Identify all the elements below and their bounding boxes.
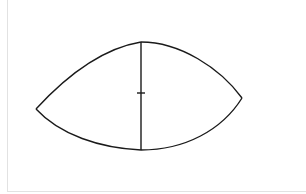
- lens-upper-right-arc: [141, 42, 242, 98]
- lens-lower-left-arc: [36, 109, 141, 150]
- lens-upper-left-arc: [36, 42, 141, 109]
- lens-diagram: [0, 0, 306, 194]
- lens-lower-right-arc: [141, 98, 242, 150]
